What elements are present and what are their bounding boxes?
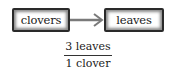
arrow-right-icon [70, 13, 104, 27]
target-box-leaves: leaves [104, 8, 164, 32]
source-box-label: clovers [21, 13, 61, 27]
fraction-numerator: 3 leaves [58, 40, 118, 53]
source-box-clovers: clovers [12, 8, 70, 32]
target-box-label: leaves [116, 13, 151, 27]
fraction-bar [64, 55, 112, 56]
fraction-denominator: 1 clover [58, 57, 118, 70]
